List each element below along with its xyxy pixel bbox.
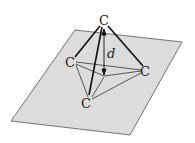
- atom-label-bottom: C: [81, 96, 91, 111]
- carbon-pyramid-diagram: C C C C d: [0, 0, 195, 143]
- atom-label-left: C: [65, 55, 75, 70]
- distance-label: d: [107, 46, 115, 61]
- atom-label-right: C: [140, 64, 150, 79]
- atom-label-top: C: [99, 13, 109, 28]
- plane: [11, 30, 182, 135]
